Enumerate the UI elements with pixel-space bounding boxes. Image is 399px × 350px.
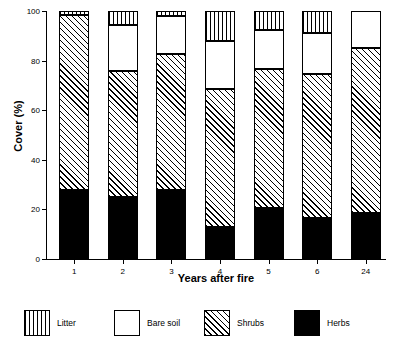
- bar-6[interactable]: [302, 11, 332, 259]
- y-axis-line: [46, 11, 47, 260]
- bar-segment-litter[interactable]: [302, 11, 332, 33]
- legend-label: Litter: [57, 318, 76, 328]
- y-tick-label: 100: [27, 7, 40, 16]
- x-tick-mark: [366, 260, 367, 264]
- chart-legend: LitterBare soilShrubsHerbs: [24, 305, 384, 341]
- legend-swatch-bare-soil: [114, 310, 140, 336]
- bar-segment-shrubs[interactable]: [156, 54, 186, 189]
- y-tick-mark: [42, 11, 46, 12]
- legend-swatch-shrubs: [204, 310, 230, 336]
- x-axis-line: [46, 259, 386, 260]
- bar-segment-herbs[interactable]: [302, 218, 332, 259]
- bar-segment-litter[interactable]: [254, 11, 284, 30]
- bar-segment-bare-soil[interactable]: [351, 11, 381, 48]
- y-tick-mark: [42, 110, 46, 111]
- bar-segment-shrubs[interactable]: [302, 74, 332, 218]
- legend-swatch-herbs: [294, 310, 320, 336]
- legend-swatch-litter: [24, 310, 50, 336]
- x-tick-mark: [269, 260, 270, 264]
- y-tick-label: 60: [31, 106, 40, 115]
- x-tick-mark: [317, 260, 318, 264]
- y-tick-label: 80: [31, 56, 40, 65]
- y-tick-label: 0: [36, 255, 40, 264]
- legend-item-bare-soil[interactable]: Bare soil: [114, 310, 204, 336]
- bar-segment-herbs[interactable]: [108, 197, 138, 259]
- bar-segment-litter[interactable]: [108, 11, 138, 25]
- legend-label: Shrubs: [237, 318, 264, 328]
- bar-segment-shrubs[interactable]: [108, 71, 138, 197]
- legend-label: Bare soil: [147, 318, 180, 328]
- y-tick-mark: [42, 259, 46, 260]
- bar-segment-herbs[interactable]: [254, 208, 284, 259]
- bar-3[interactable]: [156, 11, 186, 259]
- bar-segment-bare-soil[interactable]: [302, 33, 332, 74]
- bar-segment-litter[interactable]: [59, 11, 89, 15]
- y-tick-label: 20: [31, 205, 40, 214]
- bar-segment-litter[interactable]: [156, 11, 186, 16]
- bar-segment-bare-soil[interactable]: [254, 30, 284, 70]
- bar-segment-shrubs[interactable]: [205, 89, 235, 227]
- y-tick-mark: [42, 61, 46, 62]
- bar-segment-litter[interactable]: [205, 11, 235, 41]
- x-axis-title: Years after fire: [46, 272, 386, 284]
- bar-segment-shrubs[interactable]: [254, 69, 284, 208]
- legend-label: Herbs: [327, 318, 350, 328]
- y-tick-mark: [42, 209, 46, 210]
- bar-4[interactable]: [205, 11, 235, 259]
- bar-segment-herbs[interactable]: [59, 190, 89, 259]
- stacked-bar-chart: Cover (%) 020406080100 12345624 Years af…: [0, 0, 399, 350]
- bar-segment-bare-soil[interactable]: [205, 41, 235, 89]
- bar-segment-herbs[interactable]: [205, 227, 235, 259]
- bar-1[interactable]: [59, 11, 89, 259]
- y-tick-label: 40: [31, 155, 40, 164]
- legend-item-litter[interactable]: Litter: [24, 310, 114, 336]
- bar-segment-bare-soil[interactable]: [156, 16, 186, 54]
- bar-segment-herbs[interactable]: [351, 213, 381, 259]
- bar-5[interactable]: [254, 11, 284, 259]
- bar-segment-bare-soil[interactable]: [108, 25, 138, 71]
- plot-area: 020406080100 12345624: [46, 11, 386, 260]
- x-tick-mark: [220, 260, 221, 264]
- bar-24[interactable]: [351, 11, 381, 259]
- legend-item-herbs[interactable]: Herbs: [294, 310, 384, 336]
- bar-2[interactable]: [108, 11, 138, 259]
- y-tick-mark: [42, 160, 46, 161]
- bar-segment-shrubs[interactable]: [351, 48, 381, 213]
- bar-segment-herbs[interactable]: [156, 190, 186, 259]
- bar-segment-shrubs[interactable]: [59, 15, 89, 190]
- x-tick-mark: [123, 260, 124, 264]
- x-tick-mark: [74, 260, 75, 264]
- x-tick-mark: [171, 260, 172, 264]
- legend-item-shrubs[interactable]: Shrubs: [204, 310, 294, 336]
- y-axis-title: Cover (%): [12, 56, 24, 196]
